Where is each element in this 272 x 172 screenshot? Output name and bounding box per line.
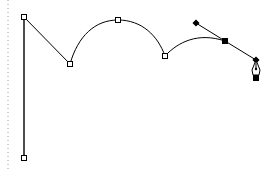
anchor-point[interactable] [22, 15, 27, 20]
path-segment-arc-1[interactable] [70, 20, 165, 64]
anchor-points[interactable] [22, 15, 228, 161]
path-segment-diagonal[interactable] [24, 17, 70, 64]
anchor-point-selected[interactable] [223, 39, 228, 44]
anchor-point[interactable] [116, 18, 121, 23]
bezier-path[interactable] [24, 17, 225, 158]
drawing-canvas[interactable] [0, 0, 272, 172]
anchor-point[interactable] [163, 54, 168, 59]
handle-line-out [225, 41, 256, 60]
handle-point-in[interactable] [193, 20, 199, 26]
anchor-point[interactable] [68, 62, 73, 67]
path-segment-arc-2[interactable] [165, 38, 225, 56]
vector-artboard[interactable] [0, 0, 272, 172]
handle-line-in [196, 23, 225, 41]
pen-tool-cursor-icon [252, 60, 260, 81]
anchor-point[interactable] [22, 156, 27, 161]
